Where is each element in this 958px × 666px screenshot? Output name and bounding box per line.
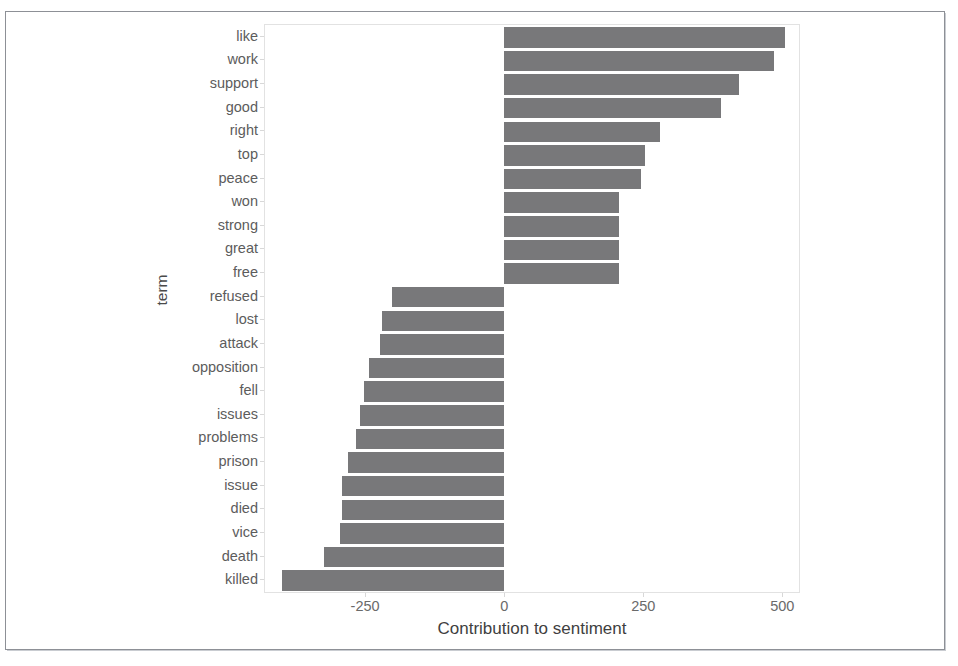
bar-row [265,498,799,523]
bar-row [265,96,799,121]
x-tick-label: 250 [631,598,655,614]
y-tick-label: vice [170,525,258,539]
bar-row [265,521,799,546]
bar [504,216,619,237]
bar [504,51,774,72]
y-tick-label: won [170,194,258,208]
bar-row [265,72,799,97]
y-tick-label: right [170,123,258,137]
y-tick-label: attack [170,336,258,350]
bar-row [265,545,799,570]
bar-row [265,309,799,334]
y-tick-label: death [170,549,258,563]
bar [380,334,505,355]
y-tick-label: top [170,147,258,161]
y-tick-label: fell [170,383,258,397]
bar [342,500,504,521]
bar [364,381,504,402]
bar [356,429,505,450]
y-tick-label: peace [170,171,258,185]
bar [504,145,645,166]
bar [504,192,619,213]
y-axis-tick-labels: likeworksupportgoodrighttoppeacewonstron… [170,24,258,593]
bar-row [265,261,799,286]
bar-row [265,143,799,168]
y-tick-label: died [170,501,258,515]
bar [360,405,504,426]
y-tick-label: free [170,265,258,279]
bar-row [265,568,799,593]
bar [342,476,504,497]
x-tick-label: -250 [351,598,380,614]
y-tick-label: like [170,29,258,43]
y-tick-label: support [170,76,258,90]
x-tick-mark [365,593,366,597]
bar-row [265,332,799,357]
bar [504,122,660,143]
plot-panel [264,24,800,593]
bar-row [265,120,799,145]
bar [282,570,505,591]
bar-row [265,450,799,475]
bar [504,263,619,284]
bar [504,74,739,95]
bar-row [265,379,799,404]
x-tick-mark [504,593,505,597]
bar-row [265,25,799,50]
y-axis-title: term [153,259,171,321]
y-tick-label: lost [170,312,258,326]
bar [348,452,504,473]
bar-row [265,238,799,263]
y-tick-label: problems [170,430,258,444]
bar [504,98,720,119]
bar-row [265,356,799,381]
bar [324,547,504,568]
bar-row [265,214,799,239]
y-tick-label: issues [170,407,258,421]
x-tick-mark [643,593,644,597]
y-tick-label: issue [170,478,258,492]
bar-row [265,190,799,215]
y-tick-label: great [170,241,258,255]
bar [369,358,504,379]
y-tick-label: good [170,100,258,114]
x-axis-title: Contribution to sentiment [264,619,800,639]
x-tick-mark [782,593,783,597]
bar-chart-figure: term likeworksupportgoodrighttoppeacewon… [0,0,958,666]
x-tick-label: 0 [500,598,508,614]
bar [504,169,641,190]
bar [504,240,619,261]
y-tick-label: strong [170,218,258,232]
bar-row [265,49,799,74]
y-tick-label: opposition [170,360,258,374]
bar-row [265,474,799,499]
y-tick-label: work [170,52,258,66]
bar [382,311,504,332]
y-tick-label: refused [170,289,258,303]
bar-row [265,427,799,452]
bar [504,27,784,48]
bar-row [265,285,799,310]
x-axis-tick-labels: -2500250500 [264,598,800,618]
x-tick-label: 500 [770,598,794,614]
bar [340,523,505,544]
y-tick-label: prison [170,454,258,468]
bar-row [265,403,799,428]
bar [392,287,504,308]
y-tick-label: killed [170,572,258,586]
bar-row [265,167,799,192]
